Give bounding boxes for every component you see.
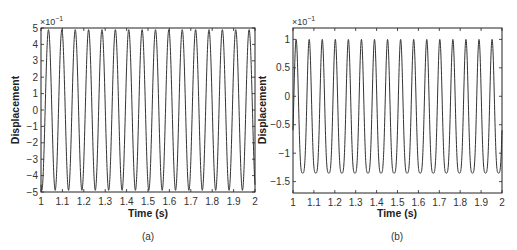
x-tick-label: 1.9 [474, 197, 488, 208]
y-tick-label: 2 [32, 72, 38, 83]
y-tick-label: 1 [32, 88, 38, 99]
y-axis-label-b: Displacement [256, 75, 268, 144]
y-tick-label: 0.5 [276, 62, 290, 73]
x-tick-label: 1 [290, 197, 296, 208]
x-tick-label: 1.7 [184, 196, 198, 207]
y-tick-label: −4 [27, 170, 39, 181]
x-tick-label: 1.9 [227, 196, 241, 207]
y-tick-label: 1 [284, 34, 290, 45]
y-tick-label: −1.5 [270, 176, 290, 187]
series-line-a [41, 30, 255, 191]
y-tick-label: −1 [279, 148, 291, 159]
chart-panel-b: ×10−1 −1.5−1−0.500.51 11.11.21.31.41.51.… [256, 15, 505, 242]
y-tick-label: 3 [32, 55, 38, 66]
x-tick-label: 2 [499, 197, 505, 208]
x-tick-label: 1.2 [77, 196, 91, 207]
x-tick-label: 1.6 [162, 196, 176, 207]
x-tick-label: 1.1 [307, 197, 321, 208]
y-tick-label: 4 [32, 39, 38, 50]
x-tick-label: 1.5 [141, 196, 155, 207]
series-line-b [293, 39, 502, 173]
chart-panel-a: ×10−1 −5−4−3−2−1012345 11.11.21.31.41.51… [9, 15, 258, 242]
y-tick-label: 0 [32, 105, 38, 116]
x-tick-label: 1.2 [328, 197, 342, 208]
y-tick-label: −5 [27, 187, 39, 198]
y-tick-label: 0 [284, 91, 290, 102]
x-axis-label-a: Time (s) [128, 207, 168, 219]
panel-caption-a: (a) [142, 231, 154, 242]
x-tick-label: 1 [38, 196, 44, 207]
x-axis-label-b: Time (s) [377, 207, 417, 219]
x-tick-label: 1.8 [205, 196, 219, 207]
x-tick-label: 1.4 [120, 196, 134, 207]
y-axis-label-a: Displacement [9, 75, 21, 144]
x-tick-label: 1.3 [349, 197, 363, 208]
x-tick-label: 1.7 [432, 197, 446, 208]
y-tick-label: −1 [27, 121, 39, 132]
y-tick-label: 5 [32, 23, 38, 34]
x-tick-label: 1.8 [453, 197, 467, 208]
y-multiplier-a: ×10−1 [40, 15, 63, 27]
y-tick-label: −2 [27, 137, 39, 148]
figure: ×10−1 −5−4−3−2−1012345 11.11.21.31.41.51… [0, 0, 517, 250]
y-tick-label: −0.5 [270, 119, 290, 130]
y-multiplier-b: ×10−1 [292, 15, 315, 27]
panel-caption-b: (b) [391, 231, 403, 242]
x-tick-label: 2 [252, 196, 258, 207]
x-tick-label: 1.1 [55, 196, 69, 207]
y-tick-label: −3 [27, 154, 39, 165]
x-tick-label: 1.3 [98, 196, 112, 207]
